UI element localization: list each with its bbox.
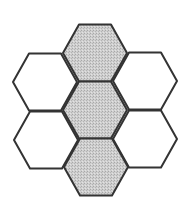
hexagon-cluster-diagram	[0, 0, 187, 222]
